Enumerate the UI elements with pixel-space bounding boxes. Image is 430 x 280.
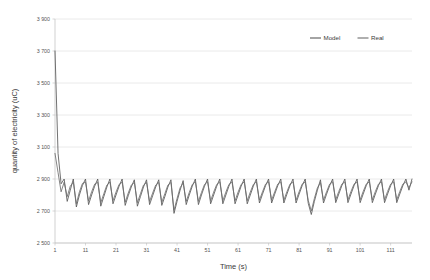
x-tick-label: 31 — [144, 247, 150, 253]
y-tick-label: 3 900 — [37, 16, 50, 22]
legend-label-real[interactable]: Real — [371, 34, 384, 41]
x-tick-label: 21 — [113, 247, 119, 253]
y-tick-label: 2 500 — [37, 240, 50, 246]
legend-label-model[interactable]: Model — [324, 34, 341, 41]
x-tick-label: 71 — [266, 247, 272, 253]
x-tick-label: 81 — [296, 247, 302, 253]
y-tick-label: 3 100 — [37, 144, 50, 150]
x-tick-label: 61 — [235, 247, 241, 253]
y-tick-label: 3 700 — [37, 48, 50, 54]
x-axis-title: Time (s) — [220, 262, 248, 271]
x-tick-label: 91 — [327, 247, 333, 253]
x-tick-label: 101 — [356, 247, 365, 253]
line-chart: 2 5002 7002 9003 1003 3003 5003 7003 900… — [0, 0, 430, 280]
x-tick-label: 111 — [387, 247, 395, 253]
y-tick-label: 2 700 — [37, 208, 50, 214]
x-tick-label: 51 — [205, 247, 211, 253]
y-tick-label: 3 300 — [37, 112, 50, 118]
y-axis-title: quantity of electricity (uC) — [10, 88, 19, 173]
y-tick-label: 2 900 — [37, 176, 50, 182]
x-tick-label: 41 — [174, 247, 180, 253]
x-tick-label: 11 — [83, 247, 89, 253]
y-tick-label: 3 500 — [37, 80, 50, 86]
x-tick-label: 1 — [54, 247, 57, 253]
chart-container: 2 5002 7002 9003 1003 3003 5003 7003 900… — [0, 0, 430, 280]
